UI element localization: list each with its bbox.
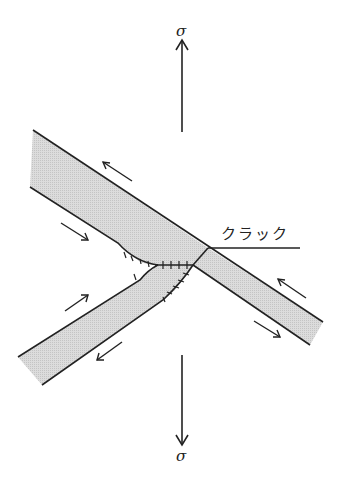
sigma-bottom-label: σ — [176, 447, 186, 465]
sigma-top-label: σ — [176, 22, 186, 40]
shear-band-crack-diagram: σ σ クラック — [0, 0, 342, 483]
crack-label: クラック — [221, 222, 289, 243]
lower-left-band-fill — [18, 265, 193, 385]
diagram-svg — [0, 0, 342, 483]
